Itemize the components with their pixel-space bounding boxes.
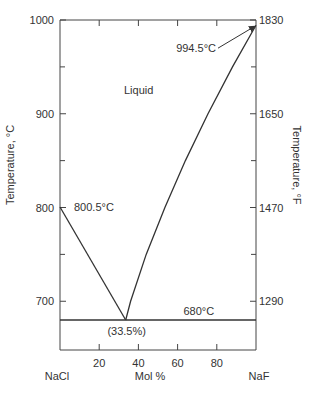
eutectic-temperature-label: 680°C [183,305,214,317]
x-tick-label: 40 [132,357,144,369]
x-tick-label: 20 [93,357,105,369]
x-tick-label: 80 [211,357,223,369]
x-end-label-naf: NaF [249,370,270,382]
y-tick-label-celsius: 900 [36,108,54,120]
y-tick-label-fahrenheit: 1830 [259,14,283,26]
axes [60,20,256,350]
y-axis-label-fahrenheit: Temperature, °F [291,126,303,205]
x-end-label-nacl: NaCl [45,370,69,382]
y-tick-label-celsius: 700 [36,295,54,307]
x-axis-label: Mol % [135,370,166,382]
y-tick-label-fahrenheit: 1290 [259,295,283,307]
y-tick-label-celsius: 800 [36,202,54,214]
y-tick-label-fahrenheit: 1470 [259,202,283,214]
eutectic-composition-label: (33.5%) [107,325,146,337]
liquidus-nacl-side [60,207,126,320]
nacl-melting-point-label: 800.5°C [74,201,114,213]
annotations: Liquid994.5°C800.5°C680°C(33.5%) [74,26,255,337]
phase-diagram: 2040608070080090010001290147016501830 Te… [0,0,310,396]
x-tick-label: 60 [171,357,183,369]
region-label-liquid: Liquid [124,84,153,96]
y-axis-label-celsius: Temperature, °C [4,125,16,205]
liquidus-naf-side [126,25,256,320]
naf-melting-point-label: 994.5°C [176,42,216,54]
curves [60,25,256,320]
labels: Temperature, °C Temperature, °F Mol % Na… [4,125,303,382]
ticks: 2040608070080090010001290147016501830 [30,14,284,369]
y-tick-label-celsius: 1000 [30,14,54,26]
y-tick-label-fahrenheit: 1650 [259,108,283,120]
